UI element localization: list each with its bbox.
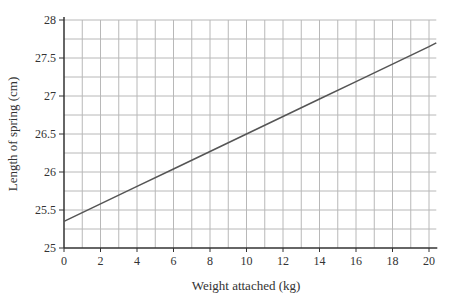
spring-length-chart: 2525.52626.52727.52802468101214161820 We… <box>0 0 451 297</box>
y-tick-label: 28 <box>44 13 56 27</box>
y-tick-label: 26.5 <box>35 127 56 141</box>
x-tick-label: 18 <box>387 254 399 268</box>
x-tick-label: 2 <box>98 254 104 268</box>
x-tick-label: 16 <box>350 254 362 268</box>
y-tick-label: 26 <box>44 165 56 179</box>
x-tick-label: 8 <box>207 254 213 268</box>
chart-canvas: 2525.52626.52727.52802468101214161820 We… <box>0 0 451 297</box>
y-tick-label: 25.5 <box>35 203 56 217</box>
tick-labels: 2525.52626.52727.52802468101214161820 <box>35 13 435 268</box>
data-series <box>64 43 436 222</box>
x-tick-label: 20 <box>423 254 435 268</box>
y-tick-label: 27 <box>44 89 56 103</box>
x-tick-label: 14 <box>314 254 326 268</box>
series-line <box>64 43 436 222</box>
x-tick-label: 10 <box>241 254 253 268</box>
x-tick-label: 6 <box>171 254 177 268</box>
x-tick-label: 0 <box>61 254 67 268</box>
y-tick-label: 25 <box>44 241 56 255</box>
x-tick-label: 12 <box>277 254 289 268</box>
x-tick-label: 4 <box>134 254 140 268</box>
grid-lines <box>64 20 436 248</box>
y-axis-label: Length of spring (cm) <box>5 77 20 191</box>
y-tick-label: 27.5 <box>35 51 56 65</box>
x-axis-label: Weight attached (kg) <box>192 278 301 293</box>
